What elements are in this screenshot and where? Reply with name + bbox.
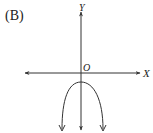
- parabola-curve: [62, 82, 103, 129]
- option-label: (B): [5, 8, 24, 24]
- parabola-diagram: (B) X Y O: [0, 0, 153, 133]
- y-axis-label: Y: [79, 2, 86, 13]
- x-axis-label: X: [142, 67, 151, 79]
- origin-label: O: [83, 62, 90, 73]
